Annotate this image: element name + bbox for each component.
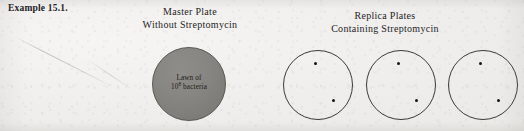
replica-plates-caption: Replica Plates Containing Streptomycin: [295, 10, 475, 35]
scan-crease-artifact-secondary: [86, 58, 135, 91]
master-plate-label-line-1: Lawn of: [171, 74, 207, 83]
master-plate-label-line-2: 108 bacteria: [171, 83, 207, 92]
master-plate-caption-line-2: Without Streptomycin: [120, 19, 260, 32]
master-plate-inner-label: Lawn of 108 bacteria: [171, 74, 207, 95]
replica-plates-caption-line-1: Replica Plates: [295, 10, 475, 23]
figure-container: Example 15.1. Master Plate Without Strep…: [0, 0, 524, 131]
colony-dot: [415, 99, 418, 102]
master-plate-circle: Lawn of 108 bacteria: [152, 47, 226, 121]
replica-plates-caption-line-2: Containing Streptomycin: [295, 23, 475, 36]
colony-dot: [332, 99, 335, 102]
bacteria-count-suffix: bacteria: [181, 83, 207, 91]
master-plate-caption: Master Plate Without Streptomycin: [120, 6, 260, 31]
replica-plate-3: [448, 50, 518, 120]
colony-dot: [314, 62, 317, 65]
replica-plate-2: [366, 50, 436, 120]
replica-plate-1: [283, 50, 353, 120]
colony-dot: [497, 99, 500, 102]
scan-crease-artifact: [14, 36, 114, 88]
example-label: Example 15.1.: [8, 3, 68, 13]
master-plate-caption-line-1: Master Plate: [120, 6, 260, 19]
colony-dot: [479, 62, 482, 65]
colony-dot: [397, 62, 400, 65]
